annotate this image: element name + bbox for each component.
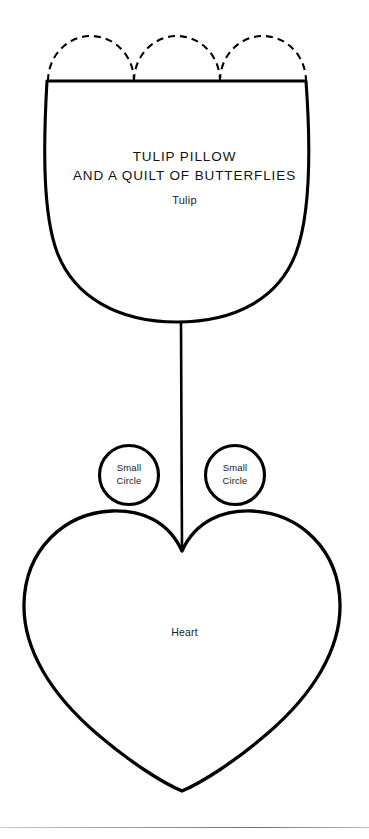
dashed-petal-arcs: [48, 36, 306, 81]
dashed-arc-right: [220, 36, 306, 81]
pattern-title-line-2: AND A QUILT OF BUTTERFLIES: [0, 166, 369, 185]
small-circle-right-label-line-1: Small: [203, 462, 267, 475]
page-bottom-rule: [0, 827, 369, 828]
small-circle-left-label-line-1: Small: [97, 462, 161, 475]
pattern-title-line-1: TULIP PILLOW: [0, 147, 369, 166]
pattern-title-block: TULIP PILLOW AND A QUILT OF BUTTERFLIES …: [0, 147, 369, 207]
sewing-pattern-drawing: [0, 0, 369, 839]
dashed-arc-left: [48, 36, 134, 81]
heart-piece-label: Heart: [0, 625, 369, 639]
small-circle-left-label: Small Circle: [97, 462, 161, 487]
stem-line: [181, 322, 182, 551]
small-circle-right-label-line-2: Circle: [203, 475, 267, 488]
dashed-arc-center: [134, 36, 220, 81]
small-circle-right-label: Small Circle: [203, 462, 267, 487]
small-circle-left-label-line-2: Circle: [97, 475, 161, 488]
pattern-sheet: TULIP PILLOW AND A QUILT OF BUTTERFLIES …: [0, 0, 369, 839]
tulip-piece-label: Tulip: [0, 193, 369, 207]
heart-outline: [24, 511, 340, 791]
